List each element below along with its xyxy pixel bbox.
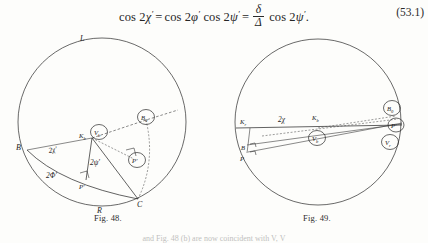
label-angle-2chi-49: 2χ (278, 115, 286, 124)
label-B-48: B (16, 143, 21, 152)
period: . (306, 10, 309, 24)
delta-over-capdelta-fraction: δΔ (253, 4, 264, 28)
figure-48: L R B 2χ′ 2ψ′ 2Φ′ Kb Vb B0 P′ P′ C Fig. … (6, 32, 210, 243)
label-K-b-49: Kb (311, 114, 319, 123)
dashed-line-apex-to-b0 (92, 110, 178, 138)
tick-b-to-p (247, 145, 248, 153)
psi-2: ψ (296, 10, 304, 24)
page-bottom-partial-text: and Fig. 48 (b) are now coincident with … (0, 234, 428, 243)
cos-4: cos (269, 10, 286, 24)
label-Pprime-circled-48: P′ (131, 157, 138, 164)
equals-2: = (240, 10, 251, 24)
equation-row: cos 2χ′=cos 2φ′ cos 2ψ′=δΔ cos 2ψ′. (53.… (0, 4, 428, 30)
label-L: L (79, 34, 85, 43)
figures-container: L R B 2χ′ 2ψ′ 2Φ′ Kb Vb B0 P′ P′ C Fig. … (0, 32, 428, 243)
arc-b-to-c (27, 150, 138, 199)
label-B-49: B (241, 144, 245, 151)
label-Pprime-circled-49: P′ (390, 122, 397, 129)
label-K-r-49: Kr (239, 118, 246, 127)
dashed-apex-to-pprime (92, 138, 134, 159)
label-V-b-circled-48: Vb (94, 129, 101, 138)
label-Pprime-foot-48: P′ (78, 183, 85, 190)
label-angle-2phi-prime: 2Φ′ (46, 171, 57, 180)
fraction-denominator: Δ (253, 16, 264, 29)
figure-48-caption: Fig. 48. (6, 213, 210, 223)
figure-49: Kr 2χ Kb Vb B P B0 P′ Vr Fig. 49. (206, 32, 428, 243)
equation-53-1: cos 2χ′=cos 2φ′ cos 2ψ′=δΔ cos 2ψ′. (0, 4, 428, 28)
book-page: cos 2χ′=cos 2φ′ cos 2ψ′=δΔ cos 2ψ′. (53.… (0, 0, 428, 243)
tick-kr-to-b (248, 128, 250, 145)
line-apex-to-c (92, 138, 138, 199)
figure-49-caption: Fig. 49. (206, 213, 428, 223)
fraction-numerator: δ (253, 4, 264, 16)
cos-2: cos (165, 10, 182, 24)
label-P-49: P (239, 155, 244, 162)
label-angle-2psi-prime: 2ψ′ (90, 158, 100, 167)
cos-3: cos (203, 10, 220, 24)
label-V-b-circled-49: Vb (312, 135, 319, 144)
figure-48-drawing: L R B 2χ′ 2ψ′ 2Φ′ Kb Vb B0 P′ P′ C (6, 32, 210, 214)
label-C-48: C (137, 200, 143, 209)
line-b-to-apex (27, 138, 92, 150)
right-angle-marker-b-49 (250, 143, 256, 147)
dashed-meridian-b0-c (138, 120, 150, 199)
label-B0-circled-48: B0 (141, 114, 148, 123)
right-angle-marker-p-49 (250, 151, 256, 155)
figure-49-drawing: Kr 2χ Kb Vb B P B0 P′ Vr (206, 32, 428, 214)
right-angle-marker-pfoot (80, 171, 89, 178)
label-angle-2chi-prime: 2χ′ (48, 144, 59, 155)
psi-1: ψ (230, 10, 238, 24)
label-B0-circled-49: B0 (387, 105, 394, 114)
equals-1: = (153, 10, 164, 24)
sphere-outline-48 (18, 38, 186, 206)
equation-number: (53.1) (396, 6, 424, 18)
cos-1: cos (119, 10, 136, 24)
label-V-r-circled-49: Vr (385, 139, 391, 148)
